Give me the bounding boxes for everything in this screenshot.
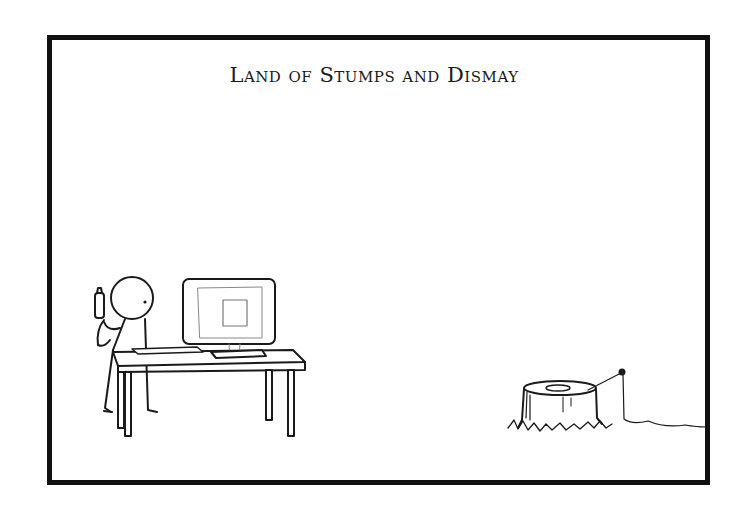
string-line: [588, 370, 706, 428]
computer-monitor: [183, 279, 275, 358]
tree-stump: [518, 381, 602, 428]
comic-scene: [0, 0, 748, 508]
keyboard: [132, 347, 203, 354]
grass: [508, 420, 612, 431]
desk: [113, 350, 305, 436]
